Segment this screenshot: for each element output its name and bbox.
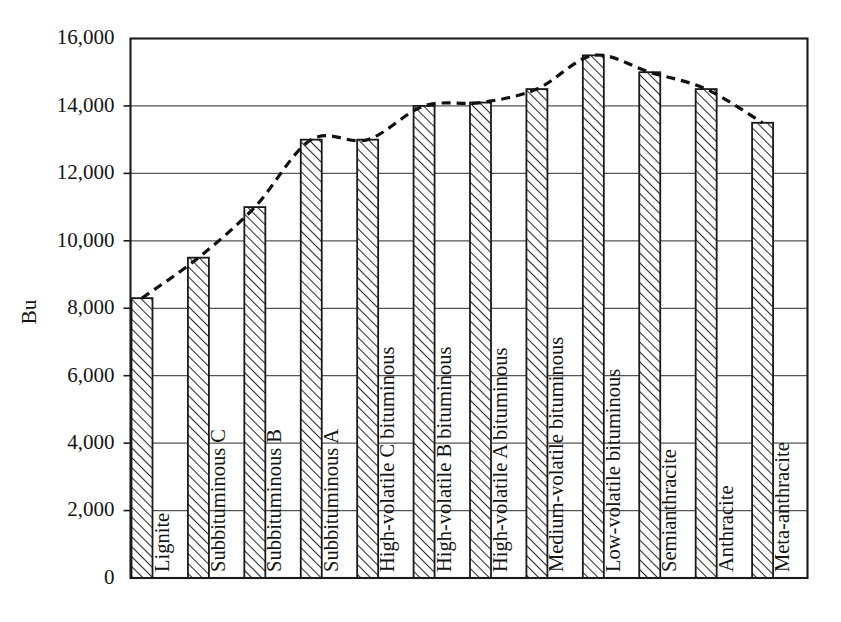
bar-label: Subbituminous B: [263, 429, 285, 572]
bar-label: Medium-volatile bituminous: [545, 337, 567, 572]
y-axis-tick-label: 8,000: [67, 295, 114, 319]
bar: [752, 123, 773, 578]
y-axis-tick-label: 2,000: [67, 497, 114, 521]
bar-label: Anthracite: [715, 485, 737, 572]
bar: [188, 258, 209, 578]
bar-label: Subbituminous C: [207, 429, 229, 572]
y-axis-title: Bu: [17, 299, 41, 324]
bar-label: Meta-anthracite: [771, 442, 793, 572]
bar: [470, 103, 491, 578]
bar-label: Subbituminous A: [320, 429, 342, 572]
y-axis-tick-label: 14,000: [57, 93, 115, 117]
bar-label: Semianthracite: [658, 449, 680, 572]
bar: [244, 207, 265, 578]
bar-chart: 16,00014,00012,00010,0008,0006,0004,0002…: [0, 0, 841, 622]
bar-label: Low-volatile bituminous: [602, 369, 624, 572]
y-axis-tick-label: 12,000: [57, 160, 115, 184]
bar-label: High-volatile B bituminous: [433, 346, 456, 572]
y-axis-tick-label: 6,000: [67, 363, 114, 387]
y-axis-tick-label: 10,000: [57, 228, 115, 252]
bar: [526, 89, 547, 578]
y-axis-tick-label: 0: [104, 565, 115, 589]
bar: [132, 298, 153, 578]
bar-label: High-volatile A bituminous: [489, 348, 512, 572]
bar-label: Lignite: [151, 513, 174, 572]
bar-label: High-volatile C bituminous: [376, 346, 399, 572]
bar: [583, 55, 604, 578]
bar: [357, 140, 378, 578]
y-axis-tick-label: 16,000: [57, 25, 115, 49]
bar: [301, 140, 322, 578]
bar: [639, 72, 660, 578]
bar: [696, 89, 717, 578]
chart-container: 16,00014,00012,00010,0008,0006,0004,0002…: [0, 0, 841, 622]
bar: [414, 106, 435, 578]
y-axis-tick-label: 4,000: [67, 430, 114, 454]
